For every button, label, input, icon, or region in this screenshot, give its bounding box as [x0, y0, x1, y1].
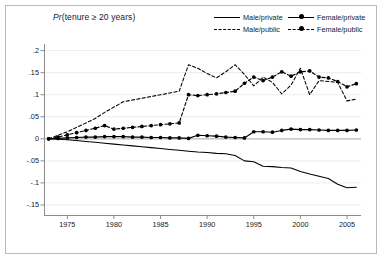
- y-tick-label: 0: [15, 135, 39, 142]
- series-marker-female_private: [261, 130, 265, 134]
- series-line-male_private: [49, 139, 357, 188]
- series-marker-female_public: [112, 127, 116, 131]
- series-marker-female_private: [168, 136, 172, 140]
- series-marker-female_public: [121, 126, 125, 130]
- series-marker-female_private: [243, 136, 247, 140]
- series-marker-female_private: [149, 136, 153, 140]
- series-marker-female_private: [252, 130, 256, 134]
- legend-item-female-public[interactable]: Female/public: [288, 25, 370, 34]
- legend-label-female-public: Female/public: [317, 25, 362, 34]
- series-marker-female_public: [75, 131, 79, 135]
- series-marker-female_public: [354, 82, 358, 86]
- y-tick-label: -.1: [15, 179, 39, 186]
- legend-item-female-private[interactable]: Female/private: [288, 13, 370, 22]
- y-tick-label: .2: [15, 47, 39, 54]
- plot-area: [44, 44, 361, 216]
- series-marker-female_private: [354, 128, 358, 132]
- legend-item-male-private[interactable]: Male/private: [214, 13, 288, 22]
- series-marker-female_public: [224, 91, 228, 95]
- series-marker-female_public: [168, 122, 172, 126]
- series-marker-female_public: [93, 126, 97, 130]
- series-marker-female_private: [289, 127, 293, 131]
- series-marker-female_public: [159, 123, 163, 127]
- series-marker-female_private: [271, 130, 275, 134]
- series-marker-female_private: [159, 136, 163, 140]
- series-marker-female_private: [103, 135, 107, 139]
- chart-title-rest: (tenure ≥ 20 years): [62, 12, 136, 22]
- series-marker-female_private: [345, 129, 349, 133]
- legend-swatch-male-public: [214, 25, 240, 34]
- series-marker-female_private: [84, 135, 88, 139]
- legend-label-female-private: Female/private: [317, 13, 365, 22]
- series-marker-female_public: [205, 93, 209, 97]
- x-tick-label: 2005: [339, 220, 355, 229]
- x-tick-label: 1990: [199, 220, 215, 229]
- series-marker-female_public: [233, 89, 237, 93]
- series-marker-female_private: [336, 129, 340, 133]
- series-marker-female_private: [93, 135, 97, 139]
- legend-swatch-female-public: [288, 25, 314, 34]
- x-tick-label: 1975: [59, 220, 75, 229]
- y-tick-label: -.15: [15, 201, 39, 208]
- series-marker-female_public: [271, 75, 275, 79]
- y-tick-label: .15: [15, 69, 39, 76]
- series-marker-female_public: [252, 75, 256, 79]
- y-tick-label: .05: [15, 113, 39, 120]
- y-tick-label: .1: [15, 91, 39, 98]
- series-marker-female_public: [280, 70, 284, 74]
- x-axis-tick-labels: 1975198019851990199520002005: [44, 220, 361, 232]
- series-marker-female_private: [224, 135, 228, 139]
- series-marker-female_private: [327, 129, 331, 133]
- series-marker-female_private: [308, 128, 312, 132]
- series-marker-female_public: [215, 92, 219, 96]
- x-tick-label: 1980: [106, 220, 122, 229]
- series-marker-female_public: [140, 125, 144, 129]
- legend-label-male-public: Male/public: [243, 25, 280, 34]
- series-marker-female_public: [131, 126, 135, 130]
- series-marker-female_private: [177, 136, 181, 140]
- series-marker-female_public: [261, 79, 265, 83]
- x-tick-label: 2000: [292, 220, 308, 229]
- chart-title-prefix: Pr: [53, 12, 62, 22]
- series-marker-female_public: [187, 93, 191, 97]
- x-tick-label: 1985: [152, 220, 168, 229]
- series-marker-female_private: [140, 135, 144, 139]
- y-axis-tick-labels: .2.15.1.050-.05-.1-.15: [14, 44, 39, 216]
- series-marker-female_private: [233, 136, 237, 140]
- series-marker-female_public: [243, 81, 247, 85]
- series-marker-female_private: [121, 135, 125, 139]
- series-marker-female_private: [299, 128, 303, 132]
- series-marker-female_public: [317, 75, 321, 79]
- legend-item-male-public[interactable]: Male/public: [214, 25, 288, 34]
- series-marker-female_public: [47, 137, 51, 141]
- series-marker-female_private: [317, 128, 321, 132]
- legend-swatch-male-private: [214, 13, 240, 22]
- series-marker-female_private: [215, 134, 219, 138]
- plot-svg: [44, 44, 361, 216]
- series-marker-female_public: [177, 121, 181, 125]
- series-marker-female_public: [56, 135, 60, 139]
- series-marker-female_public: [327, 76, 331, 80]
- legend-label-male-private: Male/private: [243, 13, 283, 22]
- chart-legend: Male/private Female/private Male/public …: [214, 11, 370, 35]
- series-marker-female_private: [131, 135, 135, 139]
- series-marker-female_private: [112, 135, 116, 139]
- series-marker-female_private: [187, 137, 191, 141]
- legend-swatch-female-private: [288, 13, 314, 22]
- series-marker-female_public: [103, 124, 107, 128]
- series-marker-female_public: [84, 129, 88, 133]
- series-marker-female_public: [196, 94, 200, 98]
- series-marker-female_public: [308, 69, 312, 73]
- series-marker-female_private: [280, 129, 284, 133]
- series-marker-female_public: [65, 133, 69, 137]
- x-tick-label: 1995: [246, 220, 262, 229]
- series-marker-female_public: [299, 70, 303, 74]
- series-marker-female_public: [336, 80, 340, 84]
- series-marker-female_public: [149, 124, 153, 128]
- series-marker-female_public: [345, 85, 349, 89]
- series-marker-female_private: [205, 134, 209, 138]
- chart-title: Pr(tenure ≥ 20 years): [53, 12, 135, 22]
- y-tick-label: -.05: [15, 157, 39, 164]
- series-marker-female_private: [196, 133, 200, 137]
- series-marker-female_public: [289, 74, 293, 78]
